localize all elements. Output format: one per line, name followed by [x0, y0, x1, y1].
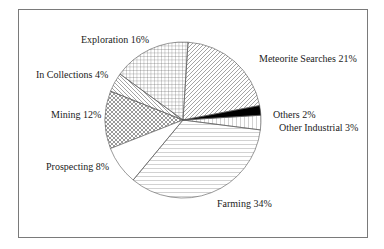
label-meteorite-searches: Meteorite Searches 21%: [259, 54, 357, 64]
label-exploration: Exploration 16%: [81, 35, 149, 45]
label-mining: Mining 12%: [51, 110, 101, 120]
label-others: Others 2%: [273, 110, 316, 120]
label-prospecting: Prospecting 8%: [46, 162, 109, 172]
label-in-collections: In Collections 4%: [36, 70, 108, 80]
pie-slices: [105, 42, 261, 198]
label-farming: Farming 34%: [217, 199, 272, 209]
label-other-industrial: Other Industrial 3%: [279, 123, 358, 133]
